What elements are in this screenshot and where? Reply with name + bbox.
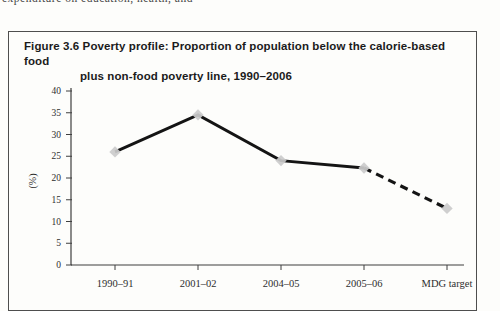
figure-box: Figure 3.6 Poverty profile: Proportion o… (8, 31, 477, 311)
body-text-fragment: expenditure on education, health, and (2, 0, 332, 4)
figure-title-line2: plus non-food poverty line, 1990–2006 (80, 69, 466, 84)
figure-title: Figure 3.6 Poverty profile: Proportion o… (24, 39, 466, 85)
figure-title-line1: Figure 3.6 Poverty profile: Proportion o… (24, 40, 445, 67)
cropped-body-text: expenditure on education, health, and (2, 0, 332, 7)
